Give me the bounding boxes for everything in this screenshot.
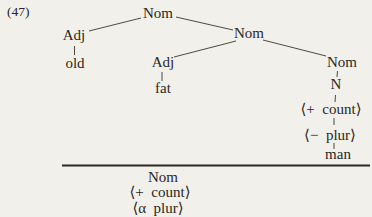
tree-terminal-fat: fat: [155, 80, 171, 97]
feature-count: ⟨+ count⟩: [301, 101, 362, 118]
edge-nom-mid-to-nom-right: [263, 40, 326, 56]
book-figure-page: (47) Nom Adj old Nom Adj fat Nom N ⟨+ co…: [0, 0, 372, 217]
tree-terminal-old: old: [65, 55, 84, 72]
tree-node-adj-left: Adj: [63, 27, 86, 44]
tree-node-root-nom: Nom: [143, 5, 173, 22]
edge-nom-mid-to-adj-mid: [174, 41, 236, 57]
edge-root-to-nom-mid: [176, 17, 233, 30]
tree-node-nom-right: Nom: [327, 54, 357, 71]
tree-terminal-man: man: [325, 146, 351, 163]
edge-root-to-adj-left: [89, 18, 141, 31]
example-number: (47): [7, 5, 30, 20]
tree-node-nom-mid: Nom: [234, 25, 264, 42]
tree-node-n: N: [331, 76, 342, 93]
feature-plur: ⟨− plur⟩: [304, 127, 356, 144]
result-feature-count: ⟨+ count⟩: [130, 184, 191, 201]
result-feature-plur: ⟨α plur⟩: [132, 200, 183, 217]
tree-node-adj-mid: Adj: [152, 54, 175, 71]
